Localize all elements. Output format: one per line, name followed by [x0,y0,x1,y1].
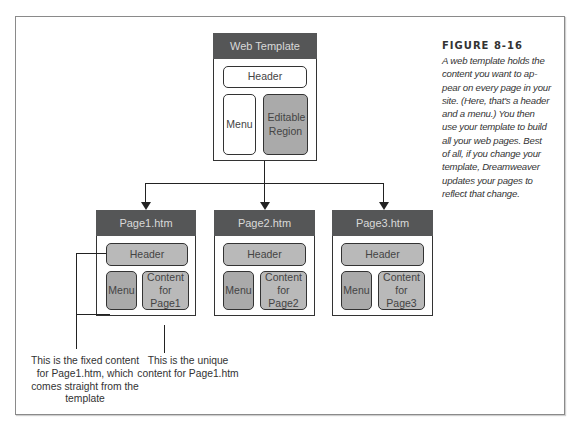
editable-region-block: Editable Region [263,94,308,155]
page2-title: Page2.htm [214,210,315,236]
page2-content-label: Content for Page2 [262,271,306,310]
page1-header-label: Header [130,248,164,261]
web-template-window: Web Template Header Menu Editable Region [213,33,317,161]
page3-title: Page3.htm [332,210,433,236]
caption-line: and a menu.) You then [442,107,560,120]
page3-window: Page3.htm Header Menu Content for Page3 [332,210,433,316]
template-header-block: Header [223,66,307,88]
annotation-unique-text: This is the unique content for Page1.htm [137,355,238,379]
callout-unique-vertical [164,325,165,353]
page3-menu-block: Menu [341,271,372,310]
caption-line: reflect that change. [442,187,560,200]
page1-menu-label: Menu [108,284,134,297]
figure-label: FIGURE 8-16 [442,40,560,51]
page2-content-block: Content for Page2 [260,271,307,310]
caption-line: all your web pages. Best [442,134,560,147]
page2-menu-label: Menu [225,284,251,297]
annotation-unique-content: This is the unique content for Page1.htm [132,355,244,381]
editable-region-label: Editable Region [268,111,304,137]
template-menu-label: Menu [226,118,252,131]
caption-line: site. (Here, that's a header [442,94,560,107]
page2-header-block: Header [223,243,306,266]
figure-caption: FIGURE 8-16 A web template holds the con… [442,40,560,200]
callout-fixed-to-header [76,253,106,254]
caption-line: of all, if you change your [442,147,560,160]
arrow-down-icon [379,202,389,210]
page3-header-block: Header [341,243,424,266]
caption-line: content you want to ap- [442,67,560,80]
page1-content-label: Content for Page1 [144,271,188,310]
page3-menu-label: Menu [343,284,369,297]
page3-content-block: Content for Page3 [378,271,425,310]
page1-header-block: Header [106,243,188,266]
page1-window: Page1.htm Header Menu Content for Page1 [96,210,196,316]
template-menu-block: Menu [223,94,256,155]
callout-fixed-to-menu [76,314,110,315]
caption-line: pear on every page in your [442,81,560,94]
page1-menu-block: Menu [106,271,137,310]
page3-header-label: Header [365,248,399,261]
page1-content-block: Content for Page1 [142,271,189,310]
caption-line: A web template holds the [442,54,560,67]
annotation-fixed-content: This is the fixed content for Page1.htm,… [30,355,140,406]
caption-line: updates your pages to [442,174,560,187]
arrow-down-icon [260,202,270,210]
page2-window: Page2.htm Header Menu Content for Page2 [214,210,315,316]
callout-fixed-vertical [76,253,77,349]
caption-line: use your template to build [442,120,560,133]
caption-line: template, Dreamweaver [442,160,560,173]
annotation-fixed-text: This is the fixed content for Page1.htm,… [31,355,139,404]
page2-menu-block: Menu [223,271,254,310]
web-template-title: Web Template [213,33,317,59]
connector-trunk [264,161,265,183]
template-header-label: Header [248,70,282,83]
figure-caption-text: A web template holds the content you wan… [442,54,560,200]
page1-title: Page1.htm [96,210,196,236]
page3-content-label: Content for Page3 [380,271,424,310]
page2-header-label: Header [247,248,281,261]
arrow-down-icon [141,202,151,210]
